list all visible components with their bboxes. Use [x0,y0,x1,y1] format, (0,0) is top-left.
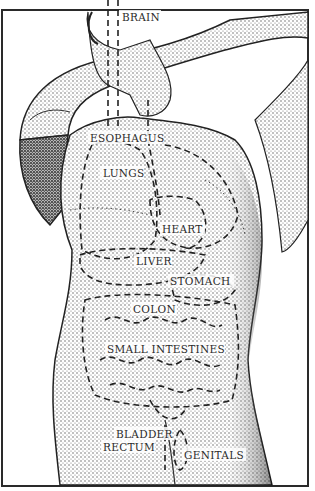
label-brain: BRAIN [122,12,160,23]
label-esophagus: ESOPHAGUS [90,133,164,144]
label-genitals: GENITALS [184,450,244,461]
label-lungs: LUNGS [103,168,145,179]
label-liver: LIVER [136,256,172,267]
label-rectum: RECTUM [103,442,155,453]
label-heart: HEART [162,224,203,235]
anatomy-illustration [0,0,315,491]
label-stomach: STOMACH [170,276,230,287]
right-arm [255,60,308,252]
label-colon: COLON [133,304,176,315]
head [87,12,171,116]
label-bladder: BLADDER [116,429,173,440]
label-small-intestines: SMALL INTESTINES [107,344,225,355]
